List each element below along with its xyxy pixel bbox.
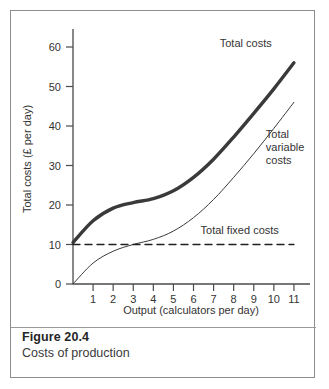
x-tick-label: 11 bbox=[288, 293, 299, 305]
series-annotation-label: Total fixed costs bbox=[201, 224, 280, 236]
series-line-total-variable-costs bbox=[73, 102, 294, 284]
x-axis-title: Output (calculators per day) bbox=[123, 304, 259, 316]
x-tick-label: 10 bbox=[268, 293, 280, 305]
cost-curves-chart: 0102030405060 1234567891011 Total costsT… bbox=[11, 11, 316, 321]
x-tick-label: 2 bbox=[110, 293, 116, 305]
y-tick-label: 0 bbox=[55, 278, 61, 290]
series-annotation-label: variable bbox=[266, 141, 305, 153]
x-tick-label: 1 bbox=[90, 293, 96, 305]
x-axis-ticks: 1234567891011 bbox=[90, 284, 300, 305]
y-tick-label: 40 bbox=[49, 120, 61, 132]
y-axis-title: Total costs (£ per day) bbox=[21, 105, 33, 213]
series-annotation-label: Total bbox=[266, 128, 289, 140]
figure-card: 0102030405060 1234567891011 Total costsT… bbox=[10, 10, 315, 378]
caption-divider bbox=[11, 327, 316, 328]
figure-number: Figure 20.4 bbox=[22, 329, 316, 345]
y-axis-ticks: 0102030405060 bbox=[49, 41, 73, 290]
y-tick-label: 60 bbox=[49, 41, 61, 53]
chart-series-layer bbox=[73, 63, 294, 284]
series-annotation-label: costs bbox=[266, 154, 292, 166]
series-line-total-costs bbox=[73, 63, 294, 243]
y-tick-label: 10 bbox=[49, 239, 61, 251]
y-tick-label: 20 bbox=[49, 199, 61, 211]
figure-caption-block: Figure 20.4 Costs of production bbox=[11, 329, 316, 362]
figure-caption-text: Costs of production bbox=[22, 345, 316, 362]
series-annotation-label: Total costs bbox=[220, 37, 272, 49]
chart-plot-area: 0102030405060 1234567891011 Total costsT… bbox=[11, 11, 316, 321]
y-tick-label: 50 bbox=[49, 81, 61, 93]
y-tick-label: 30 bbox=[49, 160, 61, 172]
